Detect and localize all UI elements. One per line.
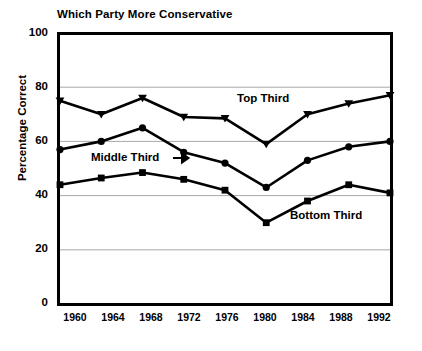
data-point-1972 bbox=[180, 176, 187, 183]
data-point-1980 bbox=[263, 184, 270, 191]
data-point-1980 bbox=[262, 141, 271, 148]
data-point-1968 bbox=[139, 169, 146, 176]
data-point-1988 bbox=[345, 143, 352, 150]
data-point-1968 bbox=[139, 124, 146, 131]
series-label-middle-third: Middle Third bbox=[91, 151, 159, 163]
data-point-1976 bbox=[222, 187, 229, 194]
series-label-bottom-third: Bottom Third bbox=[290, 209, 362, 221]
data-point-1988 bbox=[345, 181, 352, 188]
chart-container: Which Party More Conservative Percentage… bbox=[0, 0, 422, 351]
data-point-1964 bbox=[98, 138, 105, 145]
data-point-1980 bbox=[263, 219, 270, 226]
data-point-1984 bbox=[304, 157, 311, 164]
data-point-1984 bbox=[304, 198, 311, 205]
plot-frame bbox=[59, 34, 392, 305]
data-point-1964 bbox=[97, 111, 106, 118]
data-point-1964 bbox=[98, 175, 105, 182]
series-label-top-third: Top Third bbox=[237, 92, 289, 104]
data-point-1976 bbox=[221, 159, 228, 166]
plot-area bbox=[0, 0, 422, 351]
